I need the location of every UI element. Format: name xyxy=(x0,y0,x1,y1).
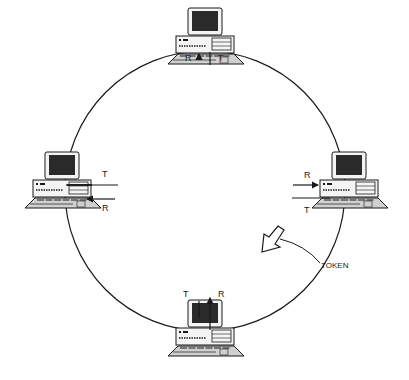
transmit-label: T xyxy=(183,289,189,299)
receive-label: R xyxy=(304,170,311,180)
node-bottom[interactable]: T R xyxy=(168,289,244,356)
transmit-label: T xyxy=(304,205,310,215)
token-ring-diagram: R T T R R T T R TOKEN xyxy=(0,0,409,380)
computer-icon xyxy=(312,152,388,208)
receive-label: R xyxy=(102,203,109,213)
token-label: TOKEN xyxy=(321,261,349,270)
transmit-label: T xyxy=(218,53,224,63)
transmit-label: T xyxy=(102,169,108,179)
computer-icon xyxy=(168,8,244,64)
node-left[interactable]: T R xyxy=(25,152,115,213)
receive-label: R xyxy=(218,289,225,299)
token-leader-line xyxy=(280,239,320,263)
node-top[interactable]: R T xyxy=(168,8,244,65)
receive-label: R xyxy=(185,53,192,63)
computer-icon xyxy=(168,300,244,356)
ring-cable xyxy=(65,51,345,331)
node-right[interactable]: R T xyxy=(292,152,388,215)
